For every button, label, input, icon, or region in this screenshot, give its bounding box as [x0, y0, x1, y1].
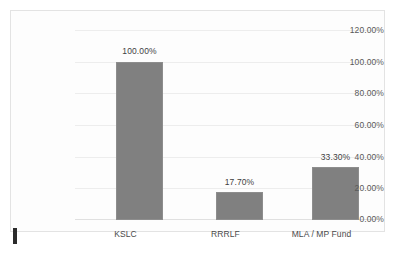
- scan-artifact-mark: [13, 228, 17, 244]
- bar-value-rrrlf: 17.70%: [194, 177, 285, 187]
- bar-rrrlf[interactable]: [216, 192, 263, 220]
- y-axis-tick-60: 60.00%: [326, 120, 384, 130]
- x-axis-label-kslc: KSLC: [72, 229, 179, 239]
- bar-mla-mp-fund[interactable]: [312, 167, 359, 220]
- y-axis-tick-20: 20.00%: [326, 183, 384, 193]
- bar-kslc[interactable]: [116, 62, 163, 220]
- y-axis-tick-0: 0.00%: [326, 214, 384, 224]
- y-axis-tick-100: 100.00%: [326, 57, 384, 67]
- y-axis-tick-80: 80.00%: [326, 88, 384, 98]
- x-axis-label-mla-mp-fund: MLA / MP Fund: [268, 229, 375, 239]
- x-axis-label-rrrlf: RRRLF: [172, 229, 279, 239]
- y-axis-tick-40: 40.00%: [326, 152, 384, 162]
- chart-container: 100.00% 17.70% 33.30% 120.00% 100.00% 80…: [10, 10, 385, 232]
- y-axis-tick-120: 120.00%: [326, 25, 384, 35]
- bar-value-kslc: 100.00%: [94, 46, 185, 56]
